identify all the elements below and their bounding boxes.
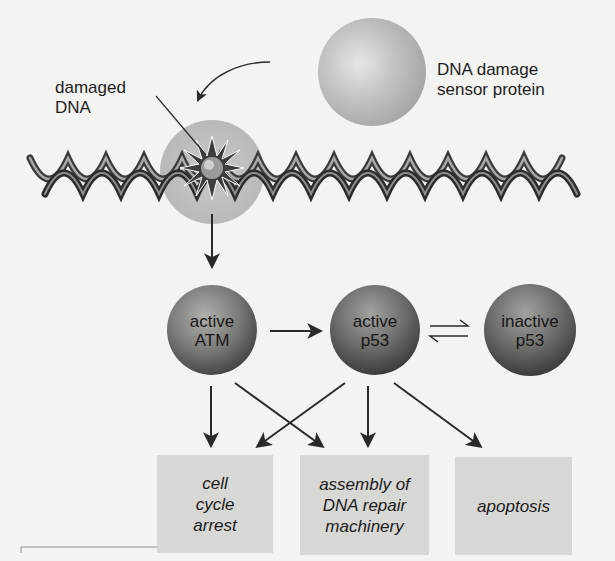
- outcome-dna-repair: assembly of DNA repair machinery: [300, 455, 429, 555]
- outcome-label: assembly of DNA repair machinery: [319, 474, 410, 537]
- outcome-apoptosis: apoptosis: [455, 457, 572, 555]
- binding-arrow: [198, 62, 270, 100]
- outcome-arrows: [211, 383, 480, 446]
- footnote-rule: [21, 547, 167, 553]
- outcome-cell-cycle-arrest: cell cycle arrest: [157, 455, 273, 553]
- p53-active-label: active p53: [330, 312, 420, 350]
- reversible-arrow-icon: [430, 320, 468, 342]
- pathway-diagram: DNA damage sensor protein damaged DNA ac…: [0, 0, 615, 561]
- sensor-protein-sphere: [318, 18, 426, 126]
- outcome-label: apoptosis: [477, 496, 550, 517]
- dna-helix-icon: [30, 158, 577, 194]
- sensor-label: DNA damage sensor protein: [437, 60, 545, 100]
- damaged-dna-label: damaged DNA: [55, 78, 126, 118]
- outcome-label: cell cycle arrest: [193, 473, 236, 536]
- p53-inactive-label: inactive p53: [484, 312, 576, 350]
- atm-label: active ATM: [167, 312, 257, 350]
